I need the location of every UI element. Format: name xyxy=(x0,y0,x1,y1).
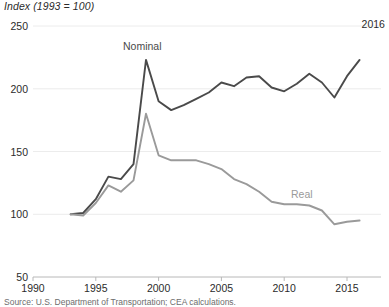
x-axis-ticks xyxy=(33,277,347,281)
source-note: Source: U.S. Department of Transportatio… xyxy=(4,297,236,307)
y-axis-tick-label: 200 xyxy=(0,84,28,94)
x-axis-tick-label: 1995 xyxy=(76,283,116,293)
y-axis-tick-label: 50 xyxy=(0,272,28,282)
data-series-group xyxy=(71,60,360,224)
series-label-nominal: Nominal xyxy=(123,41,162,51)
x-axis-tick-label: 2000 xyxy=(139,283,179,293)
y-axis-tick-label: 100 xyxy=(0,209,28,219)
end-year-annotation: 2016 xyxy=(362,19,385,29)
gridlines xyxy=(33,26,381,214)
x-axis-tick-label: 2005 xyxy=(201,283,241,293)
series-label-real: Real xyxy=(291,189,313,199)
x-axis-tick-label: 2010 xyxy=(264,283,304,293)
x-axis-tick-label: 1990 xyxy=(13,283,53,293)
x-axis-tick-label: 2015 xyxy=(327,283,367,293)
y-axis-tick-label: 250 xyxy=(0,21,28,31)
y-axis-tick-label: 150 xyxy=(0,147,28,157)
